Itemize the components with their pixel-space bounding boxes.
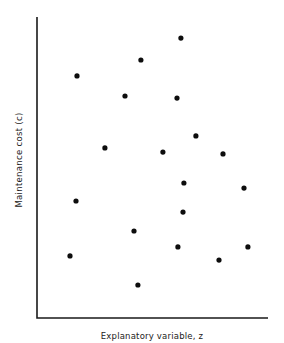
data-point (122, 93, 127, 98)
data-point (220, 151, 225, 156)
data-point (175, 244, 180, 249)
data-point (180, 210, 185, 215)
data-point (178, 36, 183, 41)
data-points (67, 36, 250, 288)
data-point (102, 145, 107, 150)
data-point (67, 253, 72, 258)
axes (37, 17, 268, 318)
data-point (216, 258, 221, 263)
data-point (241, 186, 246, 191)
data-point (193, 133, 198, 138)
data-point (245, 244, 250, 249)
data-point (181, 180, 186, 185)
y-axis-label: Maintenance cost (c) (14, 112, 24, 207)
data-point (74, 73, 79, 78)
x-axis-label: Explanatory variable, z (60, 331, 244, 341)
data-point (73, 198, 78, 203)
data-point (174, 96, 179, 101)
scatter-plot (0, 0, 284, 343)
data-point (160, 150, 165, 155)
data-point (135, 282, 140, 287)
data-point (138, 57, 143, 62)
data-point (131, 228, 136, 233)
